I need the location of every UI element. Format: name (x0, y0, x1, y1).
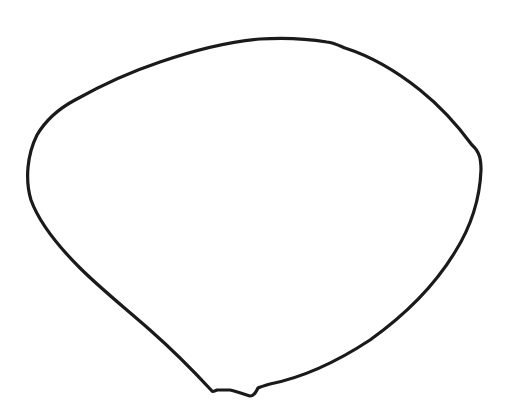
petal-outline-drawing (0, 0, 515, 412)
petal-outline (28, 38, 481, 396)
drawing-canvas (0, 0, 515, 412)
